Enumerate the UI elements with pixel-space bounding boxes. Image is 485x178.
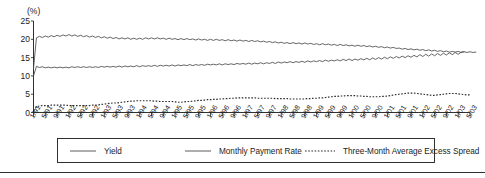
x-tick-label: 9/95 bbox=[193, 103, 208, 120]
x-tick-label: 5/96 bbox=[216, 103, 231, 120]
x-tick-label: 9/01 bbox=[405, 103, 420, 120]
x-tick-label: 9/97 bbox=[264, 103, 279, 120]
y-axis-tick-labels: 0510152025 bbox=[21, 16, 31, 118]
chart-figure: (%) 0510152025 1/915/919/911/925/929/921… bbox=[0, 0, 485, 178]
x-tick-label: 1/00 bbox=[346, 103, 361, 120]
x-tick-label: 9/02 bbox=[440, 103, 455, 120]
y-tick-label: 25 bbox=[21, 16, 31, 26]
line-chart: (%) 0510152025 1/915/919/911/925/929/921… bbox=[0, 0, 485, 178]
y-tick-label: 5 bbox=[25, 89, 30, 99]
x-tick-label: 9/93 bbox=[122, 103, 137, 120]
x-tick-label: 1/94 bbox=[134, 103, 149, 120]
legend-label-3: Three-Month Average Excess Spread bbox=[343, 147, 480, 156]
x-tick-label: 5/95 bbox=[181, 103, 196, 120]
x-tick-label: 9/99 bbox=[334, 103, 349, 120]
x-tick-label: 1/02 bbox=[417, 103, 432, 120]
x-tick-label: 1/96 bbox=[205, 103, 220, 120]
x-tick-label: 5/00 bbox=[358, 103, 373, 120]
x-tick-label: 5/94 bbox=[146, 103, 161, 120]
x-tick-label: 1/95 bbox=[169, 103, 184, 120]
x-tick-label: 9/91 bbox=[51, 103, 66, 120]
y-tick-label: 15 bbox=[21, 53, 31, 63]
y-axis-unit-label: (%) bbox=[27, 6, 40, 16]
x-tick-label: 5/93 bbox=[110, 103, 125, 120]
x-tick-label: 1/99 bbox=[311, 103, 326, 120]
x-tick-label: 5/98 bbox=[287, 103, 302, 120]
x-axis-tick-labels: 1/915/919/911/925/929/921/935/939/931/94… bbox=[28, 103, 480, 120]
x-tick-label: 1/91 bbox=[28, 103, 43, 120]
x-tick-label: 5/97 bbox=[252, 103, 267, 120]
x-tick-label: 1/97 bbox=[240, 103, 255, 120]
x-tick-label: 5/02 bbox=[429, 103, 444, 120]
y-axis-unit-text: (%) bbox=[27, 6, 40, 16]
x-tick-label: 9/94 bbox=[157, 103, 172, 120]
x-tick-label: 1/03 bbox=[452, 103, 467, 120]
x-tick-label: 1/01 bbox=[381, 103, 396, 120]
x-tick-label: 9/96 bbox=[228, 103, 243, 120]
x-tick-label: 9/98 bbox=[299, 103, 314, 120]
x-tick-label: 1/98 bbox=[275, 103, 290, 120]
legend-label-1: Yield bbox=[104, 147, 122, 156]
series-line-monthly-payment-rate bbox=[34, 52, 465, 76]
legend-items: YieldMonthly Payment RateThree-Month Ave… bbox=[70, 147, 480, 156]
y-tick-label: 10 bbox=[21, 71, 31, 81]
x-tick-label: 5/99 bbox=[322, 103, 337, 120]
series-group bbox=[34, 35, 476, 112]
legend-label-2: Monthly Payment Rate bbox=[219, 147, 302, 156]
y-tick-label: 20 bbox=[21, 34, 31, 44]
x-tick-label: 9/00 bbox=[370, 103, 385, 120]
x-tick-label: 5/03 bbox=[464, 103, 479, 120]
x-tick-label: 1/93 bbox=[98, 103, 113, 120]
x-tick-label: 5/01 bbox=[393, 103, 408, 120]
